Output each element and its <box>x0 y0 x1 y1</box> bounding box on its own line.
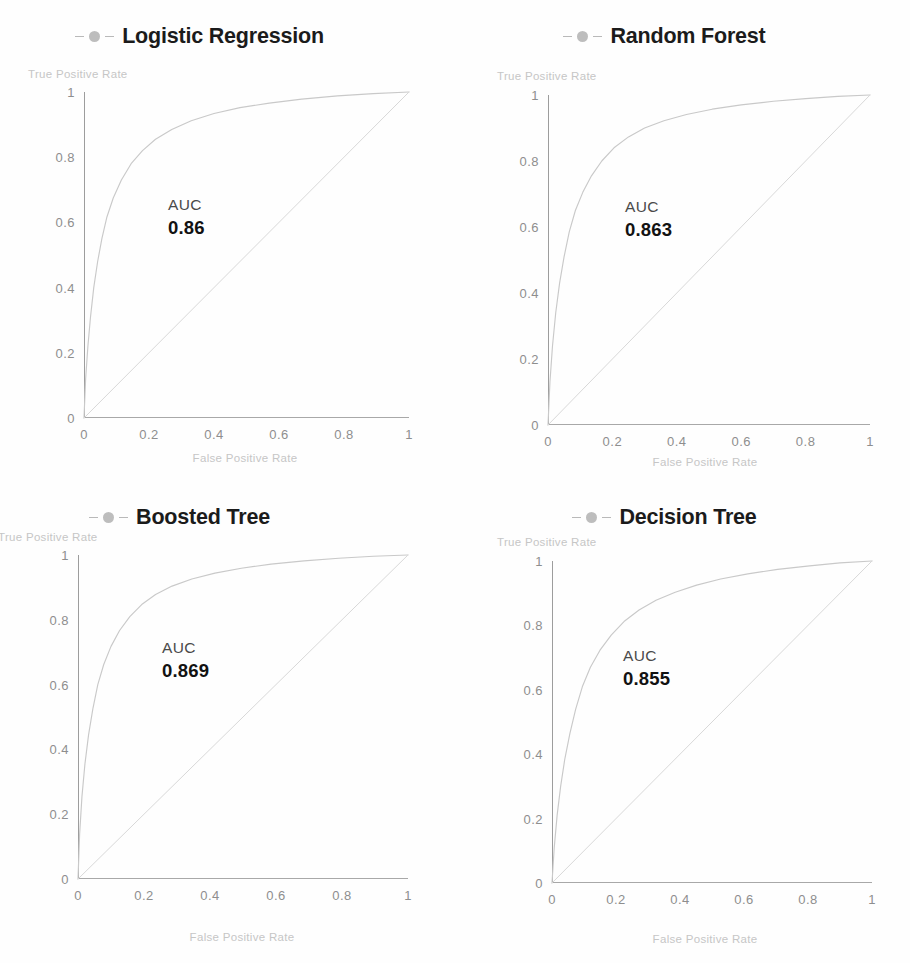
y-axis-tick-label: 1 <box>535 554 543 569</box>
roc-curve-svg <box>84 92 409 418</box>
plot-area: 00.20.40.60.8100.20.40.60.81 <box>548 95 870 425</box>
y-axis-tick-label: 0.8 <box>49 612 69 627</box>
plot-area: 00.20.40.60.8100.20.40.60.81 <box>84 92 409 418</box>
y-axis-tick-label: 0.2 <box>49 807 69 822</box>
y-axis-tick-label: 0 <box>67 411 75 426</box>
auc-value: 0.86 <box>168 217 205 239</box>
chart-title: Random Forest <box>610 24 765 49</box>
legend-dash-left-icon <box>75 36 84 37</box>
legend-dash-left-icon <box>89 517 98 518</box>
chart-title: Boosted Tree <box>136 505 270 530</box>
y-axis-title: True Positive Rate <box>28 68 128 80</box>
y-axis-tick-label: 0 <box>535 876 543 891</box>
legend-dash-right-icon <box>602 517 611 518</box>
x-axis-tick-label: 0.2 <box>606 892 626 907</box>
auc-annotation: AUC0.869 <box>162 639 209 682</box>
x-axis-tick-label: 0.2 <box>134 888 154 903</box>
x-axis-tick-label: 1 <box>866 434 874 449</box>
y-axis-tick-label: 0.4 <box>55 280 75 295</box>
x-axis-tick-label: 0 <box>80 427 88 442</box>
chart-title: Logistic Regression <box>122 24 324 49</box>
y-axis-tick-label: 1 <box>531 88 539 103</box>
x-axis-tick-label: 0 <box>548 892 556 907</box>
x-axis-tick-label: 0.4 <box>670 892 690 907</box>
y-axis-tick-label: 0.2 <box>55 345 75 360</box>
chance-diagonal-line <box>78 555 408 879</box>
x-axis-tick-label: 0.4 <box>204 427 224 442</box>
y-axis-tick-label: 0.4 <box>519 286 539 301</box>
y-axis-tick-label: 0.6 <box>523 682 543 697</box>
x-axis-tick-label: 0.4 <box>667 434 687 449</box>
legend-dash-right-icon <box>119 517 128 518</box>
y-axis-tick-label: 0.6 <box>519 220 539 235</box>
y-axis-tick-label: 0.4 <box>49 742 69 757</box>
y-axis-tick-label: 0.8 <box>519 154 539 169</box>
x-axis-tick-label: 0 <box>74 888 82 903</box>
chart-legend: Random Forest <box>437 24 892 49</box>
chance-diagonal-line <box>552 561 872 883</box>
x-axis-title: False Positive Rate <box>193 452 298 464</box>
x-axis-tick-label: 0.8 <box>796 434 816 449</box>
y-axis-tick-label: 0.8 <box>523 618 543 633</box>
y-axis-tick-label: 1 <box>67 85 75 100</box>
legend-dash-left-icon <box>572 517 581 518</box>
y-axis-tick-label: 0.2 <box>519 352 539 367</box>
x-axis-tick-label: 1 <box>404 888 412 903</box>
plot-area: 00.20.40.60.8100.20.40.60.81 <box>78 555 408 879</box>
roc-panel-1: Logistic RegressionTrue Positive RateFal… <box>0 0 455 481</box>
chart-legend: Boosted Tree <box>0 505 407 530</box>
chart-legend: Logistic Regression <box>0 24 427 49</box>
x-axis-tick-label: 0.6 <box>269 427 289 442</box>
x-axis-tick-label: 1 <box>868 892 876 907</box>
legend-dash-right-icon <box>105 36 114 37</box>
chart-legend: Decision Tree <box>437 505 892 530</box>
y-axis-tick-label: 1 <box>61 548 69 563</box>
x-axis-title: False Positive Rate <box>190 931 295 943</box>
x-axis-title: False Positive Rate <box>653 456 758 468</box>
legend-dash-left-icon <box>563 36 572 37</box>
legend-circle-marker-icon <box>103 512 114 523</box>
x-axis-tick-label: 0.6 <box>266 888 286 903</box>
auc-value: 0.863 <box>625 219 672 241</box>
x-axis-tick-label: 1 <box>405 427 413 442</box>
chance-diagonal-line <box>548 95 870 425</box>
x-axis-tick-label: 0.2 <box>139 427 159 442</box>
roc-panel-3: Boosted TreeTrue Positive RateFalse Posi… <box>0 481 455 962</box>
auc-value: 0.855 <box>623 668 670 690</box>
chance-diagonal-line <box>84 92 409 418</box>
auc-value: 0.869 <box>162 660 209 682</box>
x-axis-tick-label: 0.6 <box>731 434 751 449</box>
y-axis-tick-label: 0.6 <box>49 677 69 692</box>
y-axis-tick-label: 0 <box>61 872 69 887</box>
roc-panel-2: Random ForestTrue Positive RateFalse Pos… <box>455 0 910 481</box>
x-axis-title: False Positive Rate <box>653 933 758 945</box>
legend-circle-marker-icon <box>586 512 597 523</box>
auc-label: AUC <box>625 198 672 216</box>
x-axis-tick-label: 0 <box>544 434 552 449</box>
roc-panel-4: Decision TreeTrue Positive RateFalse Pos… <box>455 481 910 962</box>
legend-dash-right-icon <box>593 36 602 37</box>
auc-label: AUC <box>162 639 209 657</box>
auc-label: AUC <box>623 647 670 665</box>
y-axis-tick-label: 0.8 <box>55 150 75 165</box>
auc-label: AUC <box>168 196 205 214</box>
x-axis-tick-label: 0.4 <box>200 888 220 903</box>
plot-area: 00.20.40.60.8100.20.40.60.81 <box>552 561 872 883</box>
y-axis-tick-label: 0 <box>531 418 539 433</box>
x-axis-tick-label: 0.8 <box>334 427 354 442</box>
y-axis-tick-label: 0.2 <box>523 811 543 826</box>
y-axis-title: True Positive Rate <box>497 70 597 82</box>
y-axis-tick-label: 0.6 <box>55 215 75 230</box>
roc-curve-svg <box>78 555 408 879</box>
legend-circle-marker-icon <box>577 31 588 42</box>
x-axis-tick-label: 0.6 <box>734 892 754 907</box>
auc-annotation: AUC0.863 <box>625 198 672 241</box>
auc-annotation: AUC0.86 <box>168 196 205 239</box>
x-axis-tick-label: 0.2 <box>603 434 623 449</box>
x-axis-tick-label: 0.8 <box>798 892 818 907</box>
roc-curve-svg <box>552 561 872 883</box>
roc-curve-svg <box>548 95 870 425</box>
legend-circle-marker-icon <box>89 31 100 42</box>
y-axis-title: True Positive Rate <box>0 531 98 543</box>
chart-title: Decision Tree <box>619 505 756 530</box>
